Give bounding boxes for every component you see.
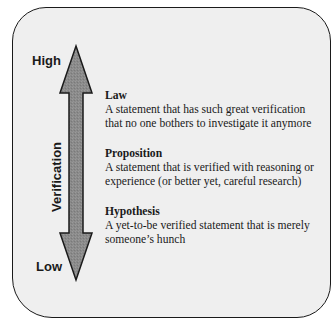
entry-term: Hypothesis [105, 205, 330, 219]
entry-term: Law [105, 89, 330, 103]
entry-proposition: Proposition A statement that is verified… [105, 147, 330, 189]
entry-description-line: A statement that is verified with reason… [105, 161, 330, 175]
axis-high-label: High [32, 53, 61, 68]
entry-description-line: A yet-to-be verified statement that is m… [105, 219, 330, 233]
entry-description-line: experience (or better yet, careful resea… [105, 175, 330, 189]
axis-title: Verification [49, 142, 64, 212]
axis-low-label: Low [36, 259, 62, 274]
entry-law: Law A statement that has such great veri… [105, 89, 330, 131]
entry-description-line: that no one bothers to investigate it an… [105, 117, 330, 131]
entry-description-line: someone’s hunch [105, 233, 330, 247]
entry-term: Proposition [105, 147, 330, 161]
entry-hypothesis: Hypothesis A yet-to-be verified statemen… [105, 205, 330, 247]
entry-description-line: A statement that has such great verifica… [105, 103, 330, 117]
